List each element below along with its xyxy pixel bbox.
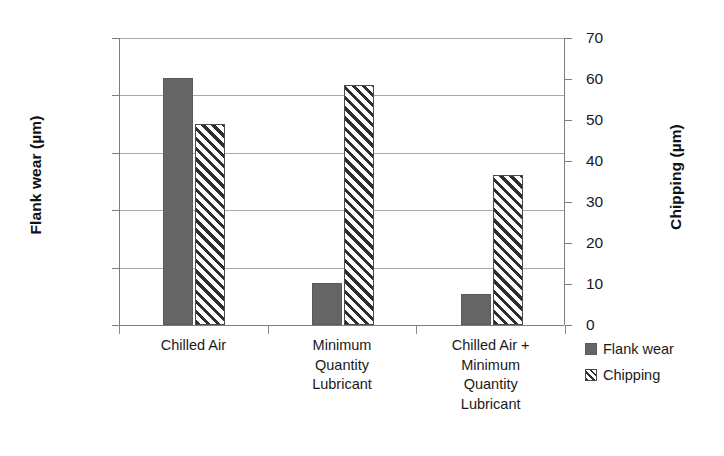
category-separator bbox=[119, 325, 120, 334]
right-tick-label: 10 bbox=[586, 276, 626, 292]
category-separator bbox=[565, 325, 566, 334]
bar-chart: Flank wear (µm) Chipping (µm) 0400800120… bbox=[0, 0, 724, 456]
left-axis-ticks: 0400800120016002000 bbox=[0, 0, 112, 456]
left-tick-mark bbox=[112, 95, 119, 96]
right-tick-mark bbox=[565, 161, 572, 162]
category-label-line: Chilled Air bbox=[119, 336, 268, 356]
category-label-line: Lubricant bbox=[416, 395, 565, 415]
category-separator bbox=[416, 325, 417, 334]
right-tick-label: 70 bbox=[586, 30, 626, 46]
bar-chipping bbox=[493, 175, 523, 325]
category-separator bbox=[268, 325, 269, 334]
right-tick-label: 40 bbox=[586, 153, 626, 169]
right-tick-label: 30 bbox=[586, 194, 626, 210]
left-tick-mark bbox=[112, 268, 119, 269]
category-label: Chilled Air +MinimumQuantityLubricant bbox=[416, 336, 565, 414]
legend-item[interactable]: Flank wear bbox=[585, 341, 715, 357]
category-label-line: Minimum bbox=[268, 336, 417, 356]
legend-swatch-solid bbox=[585, 343, 597, 355]
legend-label: Chipping bbox=[603, 367, 660, 383]
bar-chipping bbox=[195, 124, 225, 325]
right-tick-label: 60 bbox=[586, 71, 626, 87]
right-tick-mark bbox=[565, 38, 572, 39]
bar-flank-wear bbox=[312, 283, 342, 325]
right-tick-mark bbox=[565, 202, 572, 203]
right-tick-mark bbox=[565, 79, 572, 80]
legend: Flank wearChipping bbox=[585, 341, 715, 393]
gridline bbox=[120, 325, 564, 326]
right-tick-label: 0 bbox=[586, 317, 626, 333]
category-label: MinimumQuantityLubricant bbox=[268, 336, 417, 395]
bar-flank-wear bbox=[163, 78, 193, 325]
right-tick-mark bbox=[565, 120, 572, 121]
left-tick-mark bbox=[112, 325, 119, 326]
category-label: Chilled Air bbox=[119, 336, 268, 356]
gridline bbox=[120, 38, 564, 39]
right-tick-mark bbox=[565, 243, 572, 244]
left-tick-mark bbox=[112, 153, 119, 154]
right-tick-mark bbox=[565, 284, 572, 285]
right-tick-label: 50 bbox=[586, 112, 626, 128]
plot-area bbox=[119, 38, 565, 325]
category-label-line: Lubricant bbox=[268, 375, 417, 395]
bar-chipping bbox=[344, 85, 374, 325]
legend-item[interactable]: Chipping bbox=[585, 367, 715, 383]
category-label-line: Quantity bbox=[416, 375, 565, 395]
category-label-line: Quantity bbox=[268, 356, 417, 376]
legend-swatch-hatched bbox=[585, 369, 597, 381]
bar-flank-wear bbox=[461, 294, 491, 325]
left-tick-mark bbox=[112, 210, 119, 211]
category-label-line: Minimum bbox=[416, 356, 565, 376]
left-tick-mark bbox=[112, 38, 119, 39]
category-label-line: Chilled Air + bbox=[416, 336, 565, 356]
right-tick-label: 20 bbox=[586, 235, 626, 251]
right-tick-mark bbox=[565, 325, 572, 326]
legend-label: Flank wear bbox=[603, 341, 674, 357]
